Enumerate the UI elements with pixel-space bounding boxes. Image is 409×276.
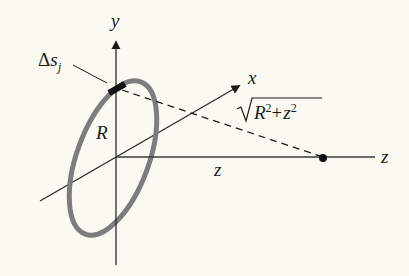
ring-field-diagram: y x z z R Δsj R2+z2 bbox=[0, 0, 409, 276]
charge-segment bbox=[109, 84, 125, 93]
segment-delta: Δ bbox=[38, 49, 50, 70]
segment-label: Δsj bbox=[38, 49, 62, 74]
ring bbox=[51, 70, 174, 247]
z-axis-label: z bbox=[380, 146, 389, 167]
formula-R: R bbox=[253, 102, 266, 123]
y-axis-label: y bbox=[109, 10, 120, 31]
segment-leader-line bbox=[73, 65, 107, 83]
field-point bbox=[319, 154, 327, 162]
x-axis-label: x bbox=[247, 67, 257, 88]
segment-s: s bbox=[50, 49, 57, 70]
formula-z-exp: 2 bbox=[291, 101, 297, 115]
z-distance-label: z bbox=[213, 159, 222, 180]
radius-label: R bbox=[95, 122, 108, 143]
formula-plus: + bbox=[272, 102, 283, 123]
distance-formula: R2+z2 bbox=[237, 98, 322, 123]
svg-text:R2+z2: R2+z2 bbox=[253, 101, 297, 123]
